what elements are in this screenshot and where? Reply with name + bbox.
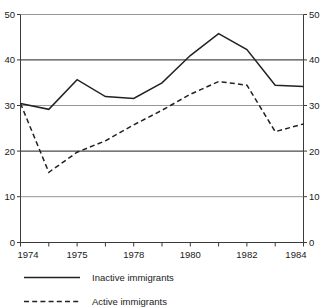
chart-canvas: 50 40 30 20 10 0 50 40 30 20 10 0 197419… [0,0,327,308]
x-axis-label-1975: 1975 [67,249,88,260]
x-axis-label-1980: 1980 [180,249,201,260]
legend-label-active-immigrants: Active immigrants [92,296,167,307]
right-axis-label-0: 0 [309,237,314,248]
right-axis-label-40: 40 [309,54,320,65]
line-chart-figure: 50 40 30 20 10 0 50 40 30 20 10 0 197419… [0,0,327,308]
left-axis-label-30: 30 [4,100,15,111]
left-axis-label-10: 10 [4,191,15,202]
x-axis-label-1982: 1982 [236,249,257,260]
right-axis-label-20: 20 [309,146,320,157]
left-axis-label-50: 50 [4,9,15,20]
x-axis-label-1978: 1978 [123,249,144,260]
legend-label-inactive-immigrants: Inactive immigrants [92,272,174,283]
right-axis-label-30: 30 [309,100,320,111]
x-axis-label-1974: 1974 [18,249,39,260]
left-axis-label-20: 20 [4,146,15,157]
right-axis-label-50: 50 [309,9,320,20]
x-axis-label-1984: 1984 [285,249,306,260]
chart-background [0,0,327,308]
right-axis-label-10: 10 [309,191,320,202]
left-axis-label-40: 40 [4,54,15,65]
left-axis-label-0: 0 [10,237,15,248]
